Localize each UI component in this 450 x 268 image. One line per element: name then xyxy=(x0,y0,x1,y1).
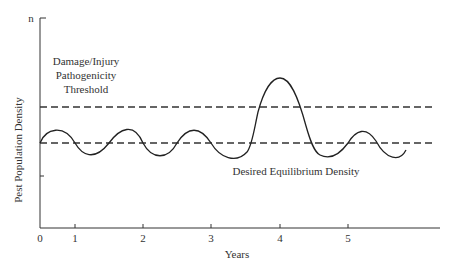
x-tick-4: 4 xyxy=(277,232,283,244)
x-axis-tick-labels: 0 1 2 3 4 5 xyxy=(37,232,351,244)
y-axis-top-label: n xyxy=(28,12,34,24)
x-axis-title: Years xyxy=(225,248,250,260)
x-tick-0: 0 xyxy=(37,232,43,244)
x-tick-3: 3 xyxy=(208,232,214,244)
equilibrium-label: Desired Equilibrium Density xyxy=(232,165,360,177)
threshold-label-line1: Damage/Injury xyxy=(53,55,120,67)
pest-population-chart: n 0 1 2 3 4 5 Years Pest Population Dens… xyxy=(0,0,450,268)
threshold-label-line3: Threshold xyxy=(64,83,109,95)
x-tick-5: 5 xyxy=(345,232,351,244)
threshold-label-line2: Pathogenicity xyxy=(56,69,117,81)
y-axis-title: Pest Population Density xyxy=(12,97,24,203)
threshold-label: Damage/Injury Pathogenicity Threshold xyxy=(53,55,120,95)
x-tick-2: 2 xyxy=(140,232,146,244)
x-tick-1: 1 xyxy=(72,232,78,244)
x-axis-ticks xyxy=(75,224,348,228)
